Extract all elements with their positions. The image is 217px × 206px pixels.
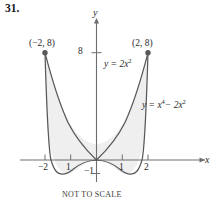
x-axis-label: x	[205, 155, 209, 165]
label-curve-quartic-exponent-b: 2	[183, 98, 186, 105]
y-tick-label-8: 8	[78, 47, 83, 57]
label-curve-parabola: y = 2x2	[104, 60, 132, 70]
label-curve-parabola-exponent: 2	[128, 57, 131, 64]
y-tick-label-neg1: −1	[84, 167, 94, 177]
figure-page: 31.	[0, 0, 217, 206]
point-marker-left	[42, 50, 47, 55]
label-curve-quartic-base-b: − 2x	[165, 100, 183, 110]
caption-not-to-scale: NOT TO SCALE	[62, 190, 122, 199]
y-axis-arrow	[94, 18, 99, 24]
point-marker-right	[145, 50, 150, 55]
x-tick-label-neg2: −2	[38, 163, 48, 173]
label-point-left: (−2, 8)	[29, 39, 55, 49]
x-tick-label-neg1: 1	[66, 163, 71, 173]
label-curve-parabola-base: y = 2x	[104, 59, 128, 69]
x-tick-label-pos1: 1	[119, 163, 124, 173]
label-point-right: (2, 8)	[132, 39, 153, 49]
x-tick-label-pos2: 2	[144, 163, 149, 173]
label-curve-quartic: y = x4− 2x2	[142, 101, 186, 111]
label-curve-quartic-base-a: y = x	[142, 100, 162, 110]
y-axis-label: y	[93, 8, 97, 18]
